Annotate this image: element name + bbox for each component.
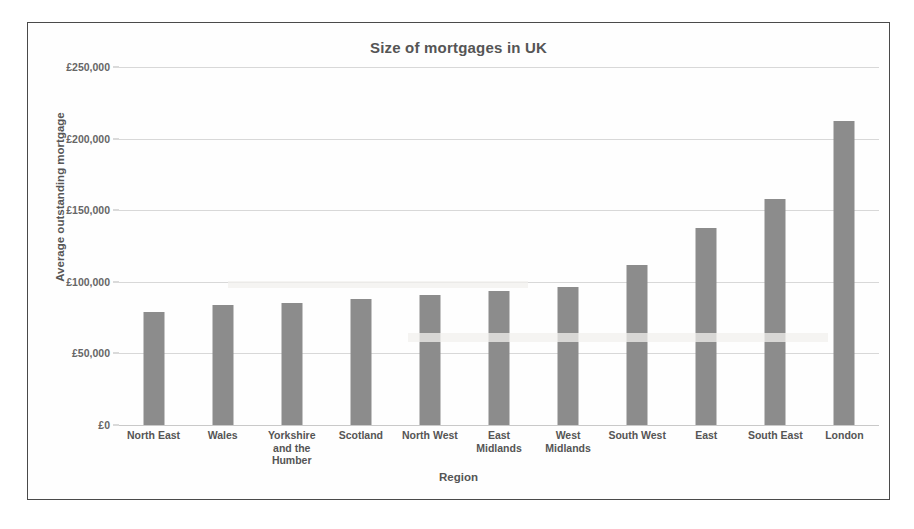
bar [350,299,371,425]
y-axis-tick-mark [113,425,119,426]
y-axis-title: Average outstanding mortgage [54,47,66,347]
bar [834,121,855,425]
bar [765,199,786,425]
bar [696,228,717,425]
bar [419,295,440,425]
y-axis-tick-mark [113,210,119,211]
gridline [119,425,879,426]
bar [627,265,648,425]
y-axis-tick-mark [113,67,119,68]
bar [281,303,302,425]
y-axis-tick-mark [113,281,119,282]
bar [558,287,579,425]
gridline [119,67,879,68]
y-axis-tick-label: £200,000 [66,133,110,145]
chart-frame: Size of mortgages in UK Average outstand… [27,22,890,500]
y-axis-tick-label: £100,000 [66,276,110,288]
y-axis-tick-mark [113,353,119,354]
y-axis-tick-label: £150,000 [66,204,110,216]
y-axis-tick-label: £250,000 [66,61,110,73]
y-axis-tick-label: £50,000 [72,347,110,359]
bar [212,305,233,425]
gridline [119,139,879,140]
x-axis-tick-label: London [801,429,887,442]
bar [489,291,510,425]
plot-area: £0£50,000£100,000£150,000£200,000£250,00… [119,67,879,425]
y-axis-tick-label: £0 [98,419,110,431]
chart-title: Size of mortgages in UK [28,39,889,56]
x-axis-title: Region [28,471,889,483]
y-axis-tick-mark [113,138,119,139]
bar [143,312,164,425]
